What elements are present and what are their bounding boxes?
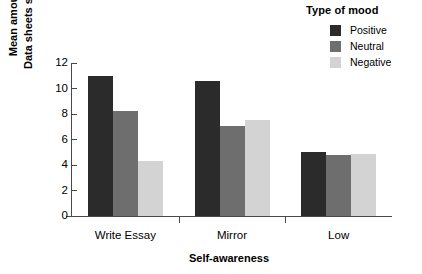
y-tick-mark [72,88,77,89]
y-tick-mark [72,165,77,166]
legend-swatch-neutral [330,41,341,52]
x-tick-label-low: Low [328,229,349,241]
x-axis-line [66,216,392,217]
y-axis-title-line-2: Data sheets summed [21,0,36,94]
legend-title: Type of mood [306,4,422,16]
y-tick-label: 12 [55,57,68,69]
y-tick-mark [72,63,77,64]
y-tick-mark [72,114,77,115]
y-tick-label: 4 [62,159,68,171]
y-tick-label: 6 [62,134,68,146]
x-tick-label-write-essay: Write Essay [95,229,156,241]
legend-label-positive: Positive [350,24,387,36]
chart-legend: Type of mood PositiveNeutralNegative [300,4,422,70]
y-tick-label: 0 [62,210,68,222]
x-axis-separator-tick-1 [179,217,180,223]
x-axis-title: Self-awareness [0,252,422,264]
y-tick-label: 8 [62,108,68,120]
y-axis-title-line-1: Mean amount of [6,0,21,94]
legend-item-neutral[interactable]: Neutral [330,38,422,54]
legend-item-positive[interactable]: Positive [330,22,422,38]
y-tick-label: 10 [55,83,68,95]
legend-label-neutral: Neutral [350,40,384,52]
bar-low-negative [351,154,376,216]
bars-layer [72,63,392,216]
y-axis-title: Mean amount of Data sheets summed [6,0,42,94]
bar-write-essay-positive [88,76,113,216]
bar-mirror-negative [245,120,270,216]
bar-low-neutral [326,155,351,216]
y-tick-mark [72,190,77,191]
bar-write-essay-neutral [113,111,138,216]
y-tick-mark [72,216,77,217]
bar-low-positive [301,152,326,216]
bar-mirror-positive [195,81,220,216]
x-tick-label-mirror: Mirror [217,229,247,241]
bar-write-essay-negative [138,161,163,216]
y-tick-mark [72,139,77,140]
plot-area: 024681012Write EssayMirrorLow [72,63,392,216]
x-axis-separator-tick-2 [285,217,286,223]
y-tick-label: 2 [62,185,68,197]
legend-swatch-positive [330,25,341,36]
bar-chart: Type of mood PositiveNeutralNegative Mea… [0,0,422,274]
bar-mirror-neutral [220,126,245,216]
